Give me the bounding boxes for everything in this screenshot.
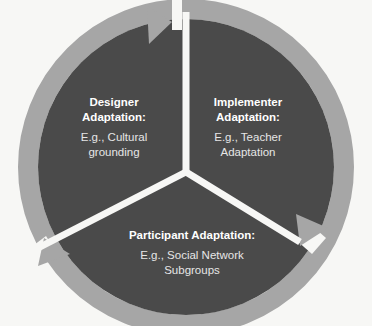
segment-title: Implementer (200, 95, 296, 110)
segment-designer-adaptation: Designer Adaptation: E.g., Cultural grou… (62, 95, 166, 160)
segment-example: E.g., Teacher (200, 130, 296, 145)
segment-example: grounding (62, 145, 166, 160)
segment-example: E.g., Social Network (92, 248, 292, 263)
segment-title: Participant Adaptation: (92, 228, 292, 243)
segment-example: E.g., Cultural (62, 130, 166, 145)
segment-participant-adaptation: Participant Adaptation: E.g., Social Net… (92, 228, 292, 278)
segment-title: Designer (62, 95, 166, 110)
segment-implementer-adaptation: Implementer Adaptation: E.g., Teacher Ad… (200, 95, 296, 160)
segment-example: Subgroups (92, 263, 292, 278)
ring-gap-top (172, 0, 182, 30)
segment-title: Adaptation: (62, 110, 166, 125)
segment-title: Adaptation: (200, 110, 296, 125)
segment-example: Adaptation (200, 145, 296, 160)
